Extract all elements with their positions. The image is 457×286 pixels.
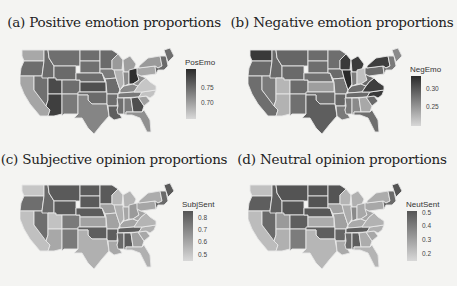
panel-negative-emotion: (b) Negative emotion proportions NegEmo … <box>228 0 456 143</box>
legend-tick: 0.75 <box>201 84 214 91</box>
state-ny <box>367 56 390 68</box>
state-co <box>290 215 308 229</box>
state-ms <box>345 233 352 249</box>
state-ar <box>107 229 118 241</box>
colorbar-legend: NegEmo 0.30 0.25 <box>410 65 455 135</box>
state-or <box>248 61 272 76</box>
state-ut <box>48 213 62 229</box>
state-wa <box>22 50 44 61</box>
panel-subjective-opinion: (c) Subjective opinion proportions SubjS… <box>0 143 228 286</box>
state-wa <box>250 50 272 61</box>
panel-neutral-opinion: (d) Neutral opinion proportions NeutSent… <box>228 143 456 286</box>
us-choropleth-map <box>248 48 408 136</box>
colorbar <box>411 76 421 126</box>
state-nd <box>80 50 100 61</box>
state-wy <box>54 201 76 215</box>
legend-tick: 0.4 <box>422 222 431 229</box>
state-nm <box>62 94 78 116</box>
state-co <box>290 80 308 94</box>
legend-tick: 0.2 <box>422 250 431 257</box>
state-nm <box>290 229 306 251</box>
state-ks <box>80 82 106 92</box>
state-or <box>20 61 44 76</box>
legend-tick: 0.8 <box>198 214 207 221</box>
legend-title: NegEmo <box>410 65 441 74</box>
state-wy <box>54 66 76 80</box>
panel-title: (a) Positive emotion proportions <box>0 14 228 30</box>
colorbar-legend: NeutSent 0.5 0.4 0.3 0.2 <box>406 200 454 270</box>
colorbar <box>183 211 193 261</box>
state-or <box>248 196 272 211</box>
legend-tick: 0.5 <box>422 209 431 216</box>
state-sd <box>308 196 328 208</box>
state-ks <box>308 217 334 227</box>
state-ms <box>345 98 352 114</box>
state-sd <box>308 61 328 73</box>
state-nd <box>308 50 328 61</box>
state-ny <box>139 56 162 68</box>
legend-title: PosEmo <box>185 58 215 67</box>
state-ny <box>367 191 390 203</box>
us-choropleth-map <box>248 183 408 271</box>
legend-tick: 0.7 <box>198 226 207 233</box>
legend-tick: 0.5 <box>198 251 207 258</box>
state-ne <box>76 73 105 82</box>
legend-tick: 0.3 <box>422 236 431 243</box>
state-in <box>123 72 129 86</box>
state-ar <box>107 94 118 106</box>
state-or <box>20 196 44 211</box>
state-sd <box>80 196 100 208</box>
legend-tick: 0.25 <box>426 103 439 110</box>
state-wy <box>282 66 304 80</box>
colorbar <box>186 69 196 119</box>
state-ms <box>117 98 124 114</box>
legend-tick: 0.6 <box>198 238 207 245</box>
state-ne <box>304 73 333 82</box>
state-mt <box>48 50 80 66</box>
colorbar-legend: PosEmo 0.75 0.70 <box>185 58 225 128</box>
state-fl <box>354 245 379 267</box>
panel-title: (b) Negative emotion proportions <box>228 14 456 30</box>
state-wa <box>22 185 44 196</box>
state-nd <box>308 185 328 196</box>
state-wy <box>282 201 304 215</box>
legend-title: SubjSent <box>182 200 214 209</box>
state-fl <box>126 110 151 132</box>
state-in <box>351 72 357 86</box>
state-ut <box>276 78 290 94</box>
state-ut <box>276 213 290 229</box>
state-ne <box>76 208 105 217</box>
state-ar <box>335 94 346 106</box>
state-fl <box>354 110 379 132</box>
state-co <box>62 80 80 94</box>
state-ny <box>139 191 162 203</box>
us-choropleth-map <box>20 183 180 271</box>
state-mt <box>48 185 80 201</box>
legend-tick: 0.30 <box>426 85 439 92</box>
panel-title: (c) Subjective opinion proportions <box>0 151 228 167</box>
state-nd <box>80 185 100 196</box>
state-co <box>62 215 80 229</box>
state-ne <box>304 208 333 217</box>
state-sd <box>80 61 100 73</box>
state-wa <box>250 185 272 196</box>
state-fl <box>126 245 151 267</box>
colorbar <box>407 211 417 261</box>
state-in <box>351 207 357 221</box>
state-ut <box>48 78 62 94</box>
state-mt <box>276 185 308 201</box>
legend-title: NeutSent <box>406 200 439 209</box>
us-choropleth-map <box>20 48 180 136</box>
state-nm <box>290 94 306 116</box>
state-nm <box>62 229 78 251</box>
state-ks <box>308 82 334 92</box>
panel-positive-emotion: (a) Positive emotion proportions PosEmo … <box>0 0 228 143</box>
state-mt <box>276 50 308 66</box>
state-in <box>123 207 129 221</box>
colorbar-legend: SubjSent 0.8 0.7 0.6 0.5 <box>182 200 227 270</box>
panel-title: (d) Neutral opinion proportions <box>228 151 456 167</box>
state-ar <box>335 229 346 241</box>
state-ks <box>80 217 106 227</box>
state-ms <box>117 233 124 249</box>
legend-tick: 0.70 <box>201 99 214 106</box>
